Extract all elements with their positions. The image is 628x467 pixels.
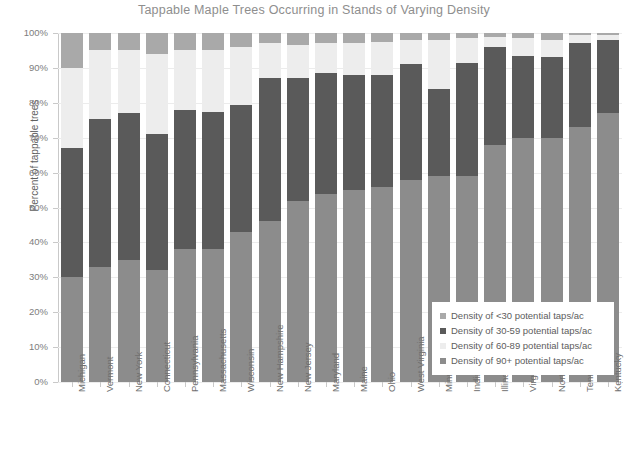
bar-segment	[174, 50, 196, 109]
bar-maryland[interactable]	[315, 33, 337, 382]
bar-segment	[61, 33, 83, 68]
bar-segment	[400, 40, 422, 64]
gridline	[58, 33, 622, 34]
bar-wisconsin[interactable]	[230, 33, 252, 382]
legend-label: Density of 60-89 potential taps/ac	[451, 340, 592, 351]
y-axis-tick	[53, 277, 58, 278]
legend-item[interactable]: Density of 30-59 potential taps/ac	[440, 323, 606, 338]
bar-segment	[400, 64, 422, 179]
bar-segment	[230, 33, 252, 47]
x-axis-tick	[213, 382, 214, 387]
bar-segment	[569, 43, 591, 127]
bar-segment	[456, 33, 478, 38]
bar-new-york[interactable]	[118, 33, 140, 382]
bar-segment	[202, 112, 224, 250]
x-axis-tick	[382, 382, 383, 387]
legend-item[interactable]: Density of 90+ potential taps/ac	[440, 353, 606, 368]
legend-label: Density of 30-59 potential taps/ac	[451, 325, 592, 336]
gridline	[58, 277, 622, 278]
gridline	[58, 138, 622, 139]
legend-swatch-icon	[440, 313, 446, 319]
y-axis-tick	[53, 242, 58, 243]
x-axis-tick-label: New York	[133, 352, 144, 392]
x-axis-tick	[241, 382, 242, 387]
x-axis-tick-label: Pennsylvania	[189, 335, 200, 392]
bar-segment	[484, 47, 506, 145]
x-axis-tick	[495, 382, 496, 387]
chart-container: Tappable Maple Trees Occurring in Stands…	[0, 0, 628, 467]
bar-segment	[456, 38, 478, 62]
bar-ohio[interactable]	[371, 33, 393, 382]
x-axis-tick-label: West Virginia	[415, 336, 426, 392]
bar-segment	[259, 33, 281, 43]
bar-segment	[315, 43, 337, 73]
bar-segment	[315, 33, 337, 43]
x-axis-tick	[326, 382, 327, 387]
y-axis-tick-label: 60%	[0, 167, 48, 178]
bar-connecticut[interactable]	[146, 33, 168, 382]
bar-segment	[315, 73, 337, 193]
bar-segment	[428, 40, 450, 89]
gridline	[58, 208, 622, 209]
x-axis-tick-label: Michigan	[76, 354, 87, 392]
bar-segment	[287, 45, 309, 78]
x-axis-tick	[467, 382, 468, 387]
bar-segment	[484, 33, 506, 36]
bar-segment	[400, 33, 422, 40]
bar-segment	[569, 35, 591, 44]
bar-segment	[89, 50, 111, 118]
gridline	[58, 68, 622, 69]
x-axis-tick-label: Maine	[358, 366, 369, 392]
bar-maine[interactable]	[343, 33, 365, 382]
bar-segment	[597, 33, 619, 35]
bar-segment	[174, 110, 196, 250]
y-axis-tick-label: 80%	[0, 97, 48, 108]
bar-segment	[118, 50, 140, 113]
bar-segment	[118, 33, 140, 50]
x-axis-tick-label: Wisconsin	[245, 349, 256, 392]
bar-segment	[343, 33, 365, 43]
bar-segment	[569, 33, 591, 35]
y-axis-tick-label: 40%	[0, 236, 48, 247]
bar-segment	[343, 190, 365, 382]
gridline	[58, 103, 622, 104]
bar-segment	[343, 43, 365, 74]
gridline	[58, 242, 622, 243]
bar-segment	[118, 113, 140, 260]
legend-item[interactable]: Density of 60-89 potential taps/ac	[440, 338, 606, 353]
bar-segment	[259, 43, 281, 78]
bar-michigan[interactable]	[61, 33, 83, 382]
legend-label: Density of <30 potential taps/ac	[451, 310, 584, 321]
bar-segment	[512, 56, 534, 138]
x-axis-tick-label: Ohio	[386, 372, 397, 392]
bar-segment	[428, 33, 450, 40]
legend-item[interactable]: Density of <30 potential taps/ac	[440, 308, 606, 323]
x-axis-tick-label: Connecticut	[161, 342, 172, 392]
legend-label: Density of 90+ potential taps/ac	[451, 355, 584, 366]
y-axis-tick	[53, 382, 58, 383]
x-axis-tick	[580, 382, 581, 387]
x-axis-tick-label: New Hampshire	[274, 324, 285, 392]
x-axis-tick	[298, 382, 299, 387]
bar-segment	[174, 33, 196, 50]
bar-segment	[89, 33, 111, 50]
bar-segment	[146, 54, 168, 134]
bar-segment	[146, 33, 168, 54]
bar-vermont[interactable]	[89, 33, 111, 382]
y-axis-tick-label: 90%	[0, 62, 48, 73]
bar-segment	[371, 75, 393, 187]
chart-legend: Density of <30 potential taps/acDensity …	[432, 302, 614, 375]
bar-segment	[202, 33, 224, 50]
bar-segment	[230, 105, 252, 232]
bar-segment	[371, 187, 393, 382]
bar-new-jersey[interactable]	[287, 33, 309, 382]
y-axis-tick-label: 20%	[0, 306, 48, 317]
chart-title: Tappable Maple Trees Occurring in Stands…	[0, 3, 628, 17]
bar-pennsylvania[interactable]	[174, 33, 196, 382]
x-axis-tick-label: Vermont	[104, 357, 115, 392]
x-axis-tick	[72, 382, 73, 387]
y-axis-tick-label: 50%	[0, 202, 48, 213]
x-axis-tick-label: Maryland	[330, 353, 341, 392]
bar-west-virginia[interactable]	[400, 33, 422, 382]
bar-segment	[541, 57, 563, 137]
